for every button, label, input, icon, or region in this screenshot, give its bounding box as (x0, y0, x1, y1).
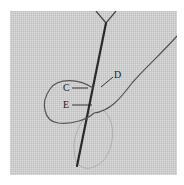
label-d: D (114, 70, 121, 80)
needle (77, 23, 106, 166)
cropped-caption (10, 180, 177, 185)
embroidery-photo: C D E (10, 11, 177, 175)
lower-thread-loop (74, 109, 113, 168)
label-c: C (63, 83, 70, 93)
top-thread (96, 11, 116, 23)
pointer-line-d (101, 77, 113, 87)
label-e: E (63, 100, 69, 110)
stitch-illustration (10, 11, 177, 175)
right-thread (94, 36, 177, 113)
embroidery-figure: C D E (0, 0, 184, 185)
